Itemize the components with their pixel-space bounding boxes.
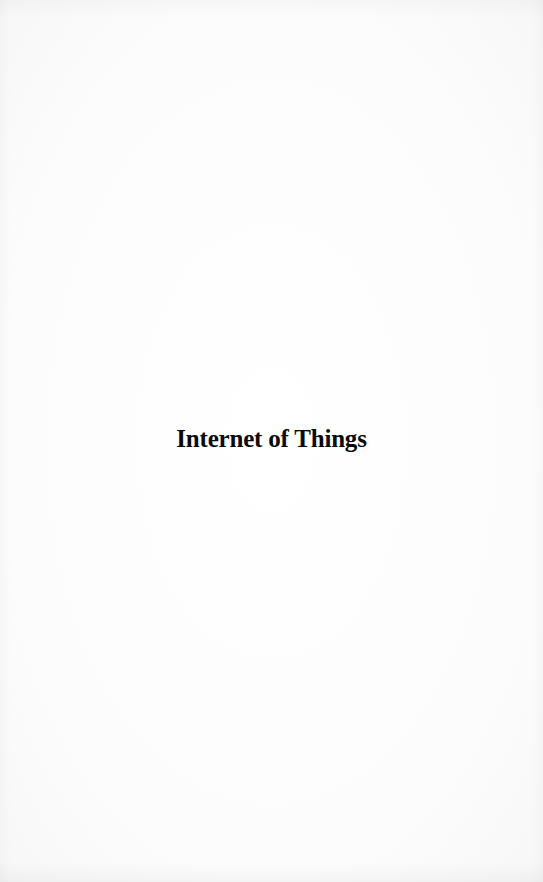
half-title-heading: Internet of Things (0, 424, 543, 454)
book-page: Internet of Things (0, 0, 543, 882)
